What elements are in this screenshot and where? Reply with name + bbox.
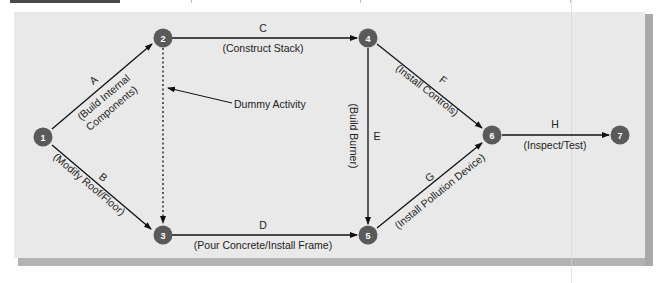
svg-text:5: 5 [365,231,370,241]
svg-text:1: 1 [40,133,45,143]
svg-text:E: E [373,130,380,142]
svg-text:7: 7 [617,131,622,141]
activity-g: G (Install Pollution Device) [377,143,487,231]
svg-text:4: 4 [365,34,370,44]
svg-text:(Install Pollution Device): (Install Pollution Device) [392,151,487,231]
node-5: 5 [359,226,378,245]
svg-text:(Inspect/Test): (Inspect/Test) [523,139,586,151]
svg-text:6: 6 [489,131,494,141]
activity-b: B (Modify Roof/Floor) [51,145,151,229]
activity-c: C (Construct Stack) [172,22,357,54]
node-1: 1 [34,128,53,147]
svg-text:D: D [259,219,267,231]
dummy-activity: Dummy Activity [163,48,307,223]
activity-d: D (Pour Concrete/Install Frame) [172,219,357,251]
node-6: 6 [483,126,502,145]
svg-text:2: 2 [160,34,165,44]
svg-text:(Build Burner): (Build Burner) [348,104,360,169]
svg-text:(Install Controls): (Install Controls) [394,62,462,119]
svg-text:3: 3 [160,231,165,241]
svg-text:H: H [551,118,559,130]
activity-a: A (Build Internal Components) [52,44,152,133]
svg-text:(Modify Roof/Floor): (Modify Roof/Floor) [51,150,128,217]
svg-text:A: A [87,73,100,87]
svg-text:(Construct Stack): (Construct Stack) [222,42,303,54]
node-3: 3 [154,226,173,245]
svg-text:F: F [437,73,449,86]
activity-e: E (Build Burner) [348,48,381,224]
node-4: 4 [359,29,378,48]
svg-text:Dummy Activity: Dummy Activity [234,98,307,110]
network-diagram: A (Build Internal Components) B (Modify … [0,0,666,283]
svg-text:C: C [259,22,267,34]
node-2: 2 [154,29,173,48]
activity-h: H (Inspect/Test) [502,118,609,151]
activity-f: F (Install Controls) [377,44,482,128]
node-7: 7 [611,126,630,145]
svg-text:B: B [97,170,110,184]
svg-text:(Pour Concrete/Install Frame): (Pour Concrete/Install Frame) [194,239,332,251]
